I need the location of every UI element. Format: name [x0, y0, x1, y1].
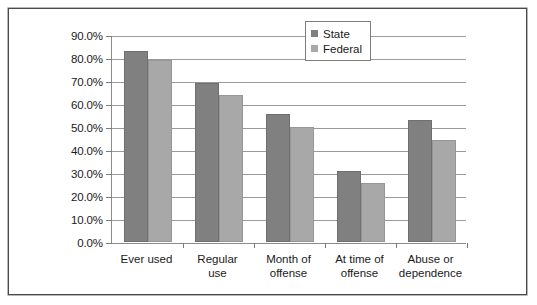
y-axis-tick-label: 50.0%: [71, 122, 103, 134]
bar-federal: [148, 60, 172, 242]
bar-group: [254, 35, 325, 242]
bar-federal: [219, 95, 243, 242]
y-axis-tick-label: 90.0%: [71, 30, 103, 42]
x-axis-label-line: dependence: [390, 266, 472, 280]
x-axis-tick: [254, 243, 255, 248]
bar-group: [396, 35, 467, 242]
x-axis-label: Ever used: [106, 252, 188, 266]
grouped-bar-chart: 90.0%80.0%70.0%60.0%50.0%40.0%30.0%20.0%…: [9, 9, 528, 296]
chart-figure: 90.0%80.0%70.0%60.0%50.0%40.0%30.0%20.0%…: [8, 8, 527, 295]
bar-federal: [432, 140, 456, 242]
x-axis-tick: [396, 243, 397, 248]
y-axis-tick-label: 20.0%: [71, 191, 103, 203]
legend-swatch-icon: [311, 45, 318, 52]
legend-label: State: [323, 28, 350, 40]
gridline: [112, 243, 466, 244]
y-axis-tick-label: 70.0%: [71, 76, 103, 88]
legend-item: Federal: [311, 41, 362, 56]
legend-label: Federal: [323, 43, 362, 55]
x-axis-tick: [467, 243, 468, 248]
x-axis-label-line: use: [177, 266, 259, 280]
y-axis-tick-label: 80.0%: [71, 53, 103, 65]
x-axis-label: At time ofoffense: [319, 252, 401, 280]
x-axis-label-line: At time of: [319, 252, 401, 266]
x-axis-label-line: Regular: [177, 252, 259, 266]
chart-legend: StateFederal: [305, 21, 371, 61]
x-axis-tick: [183, 243, 184, 248]
x-axis-label-line: Abuse or: [390, 252, 472, 266]
y-axis-tick-label: 10.0%: [71, 214, 103, 226]
legend-swatch-icon: [311, 30, 318, 37]
legend-item: State: [311, 26, 362, 41]
x-axis-label-line: offense: [248, 266, 330, 280]
bar-state: [408, 120, 432, 242]
x-axis-label-line: Month of: [248, 252, 330, 266]
x-axis-label: Month ofoffense: [248, 252, 330, 280]
x-axis-label: Regularuse: [177, 252, 259, 280]
x-axis-label-line: offense: [319, 266, 401, 280]
x-axis-label: Abuse ordependence: [390, 252, 472, 280]
x-axis-label-line: Ever used: [106, 252, 188, 266]
y-axis-tick: [106, 243, 112, 244]
bar-state: [337, 171, 361, 242]
bar-group: [112, 35, 183, 242]
y-axis-tick-label: 30.0%: [71, 168, 103, 180]
bar-group: [183, 35, 254, 242]
y-axis-tick-label: 40.0%: [71, 145, 103, 157]
bar-federal: [290, 127, 314, 242]
bar-state: [266, 114, 290, 242]
bar-federal: [361, 183, 385, 242]
y-axis-tick-label: 0.0%: [77, 237, 103, 249]
plot-area: 90.0%80.0%70.0%60.0%50.0%40.0%30.0%20.0%…: [111, 36, 466, 244]
x-axis-tick: [325, 243, 326, 248]
bar-state: [124, 51, 148, 242]
bar-group: [325, 35, 396, 242]
y-axis-tick-label: 60.0%: [71, 99, 103, 111]
bar-state: [195, 83, 219, 242]
